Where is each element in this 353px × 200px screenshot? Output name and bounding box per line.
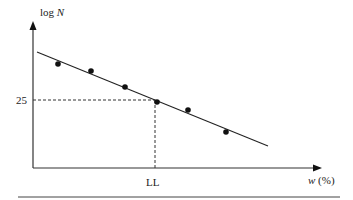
- flow-curve-chart: log N 25 LL w (%): [0, 0, 353, 200]
- data-point: [223, 129, 229, 135]
- data-point: [55, 61, 61, 67]
- data-point: [185, 107, 191, 113]
- x-axis-label: w (%): [308, 174, 335, 187]
- data-point: [122, 84, 128, 90]
- y-axis-label: log N: [40, 6, 65, 18]
- x-marker-label: LL: [146, 176, 160, 188]
- fit-line: [37, 52, 268, 146]
- x-axis-arrow-icon: [313, 165, 322, 172]
- y-axis-arrow-icon: [30, 21, 37, 30]
- data-point: [88, 68, 94, 74]
- chart-canvas: log N 25 LL w (%): [0, 0, 353, 200]
- y-marker-label: 25: [16, 94, 28, 106]
- data-points: [55, 61, 229, 135]
- data-point: [154, 99, 160, 105]
